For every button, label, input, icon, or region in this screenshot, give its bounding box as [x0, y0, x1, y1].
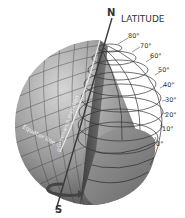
- south-label: S: [55, 204, 62, 215]
- lat-20: 20°: [165, 111, 177, 119]
- lat-50: 50°: [158, 66, 170, 74]
- lat-30: 30°: [165, 96, 177, 104]
- latitude-title: LATITUDE: [121, 14, 165, 24]
- lat-40: 40°: [163, 81, 175, 89]
- latitude-globe-diagram: 80° 70° 60° 50° 40° 30° 20° 10° 0° N S L…: [0, 0, 185, 218]
- lat-60: 60°: [150, 52, 162, 60]
- meridian-zero-label: 0: [57, 147, 60, 153]
- north-label: N: [107, 7, 115, 18]
- lat-10: 10°: [162, 125, 174, 133]
- lat-80: 80°: [128, 32, 140, 40]
- lat-70: 70°: [140, 42, 152, 50]
- lat-0: 0°: [156, 140, 163, 148]
